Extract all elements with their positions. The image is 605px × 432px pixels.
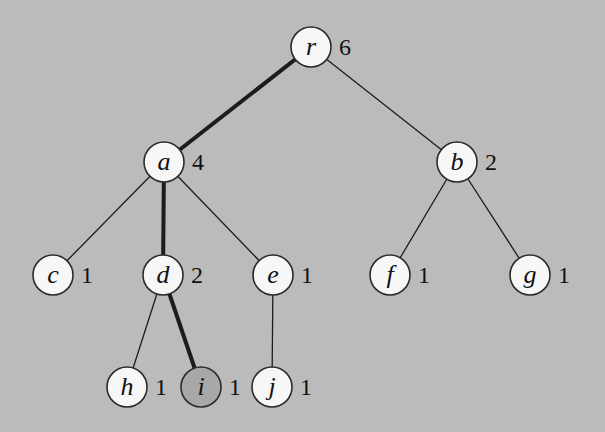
subtree-size-label: 1 xyxy=(300,374,312,400)
nodes-layer: r6a4b2c1d2e1f1g1h1i1j1 xyxy=(33,27,570,407)
node-label: a xyxy=(158,147,171,176)
subtree-size-label: 6 xyxy=(339,34,351,60)
edge-r-b xyxy=(311,47,457,162)
tree-node-r: r6 xyxy=(291,27,351,67)
node-label: d xyxy=(157,260,171,289)
tree-node-h: h1 xyxy=(107,367,167,407)
edges-layer xyxy=(53,47,530,387)
tree-node-e: e1 xyxy=(253,255,313,295)
tree-node-b: b2 xyxy=(437,142,497,182)
subtree-size-label: 1 xyxy=(81,262,93,288)
tree-diagram-canvas: r6a4b2c1d2e1f1g1h1i1j1 xyxy=(0,0,605,432)
subtree-size-label: 2 xyxy=(191,262,203,288)
node-label: h xyxy=(121,372,134,401)
tree-diagram: r6a4b2c1d2e1f1g1h1i1j1 xyxy=(0,0,605,432)
tree-node-d: d2 xyxy=(143,255,203,295)
node-label: b xyxy=(451,147,464,176)
tree-node-c: c1 xyxy=(33,255,93,295)
subtree-size-label: 4 xyxy=(192,149,204,175)
node-label: i xyxy=(197,372,204,401)
node-label: c xyxy=(47,260,59,289)
subtree-size-label: 1 xyxy=(558,262,570,288)
subtree-size-label: 2 xyxy=(485,149,497,175)
node-label: e xyxy=(267,260,279,289)
subtree-size-label: 1 xyxy=(155,374,167,400)
node-label: g xyxy=(524,260,537,289)
subtree-size-label: 1 xyxy=(418,262,430,288)
edge-a-e xyxy=(164,162,273,275)
tree-node-j: j1 xyxy=(252,367,312,407)
edge-a-c xyxy=(53,162,164,275)
tree-node-f: f1 xyxy=(370,255,430,295)
tree-node-g: g1 xyxy=(510,255,570,295)
subtree-size-label: 1 xyxy=(301,262,313,288)
tree-node-i: i1 xyxy=(181,367,241,407)
edge-r-a xyxy=(164,47,311,162)
node-label: r xyxy=(306,32,317,61)
tree-node-a: a4 xyxy=(144,142,204,182)
subtree-size-label: 1 xyxy=(229,374,241,400)
